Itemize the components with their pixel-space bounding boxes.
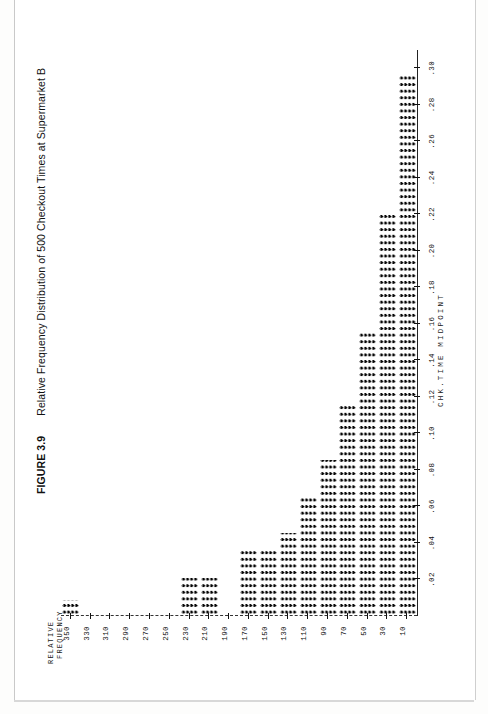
value-tick	[414, 104, 420, 105]
value-tick-label: .18	[428, 280, 436, 295]
category-tick-label: 290	[122, 626, 130, 641]
value-tick	[414, 67, 420, 68]
bar	[320, 460, 337, 615]
value-tick-label: .08	[428, 463, 436, 478]
value-tick	[414, 396, 420, 397]
category-tick	[287, 613, 288, 619]
category-tick	[169, 613, 170, 619]
bar	[240, 551, 257, 615]
figure-page: FIGURE 3.9 Relative Frequency Distributi…	[0, 0, 488, 714]
category-tick	[268, 613, 269, 619]
category-tick	[228, 613, 229, 619]
value-tick-label: .12	[428, 390, 436, 405]
category-tick	[248, 613, 249, 619]
category-tick-label: 50	[360, 626, 368, 636]
bar	[201, 578, 218, 615]
value-tick-label: .10	[428, 426, 436, 441]
category-tick	[386, 613, 387, 619]
value-tick-label: .14	[428, 353, 436, 368]
category-tick-label: 130	[280, 626, 288, 641]
category-tick-label: 70	[340, 626, 348, 636]
category-tick	[70, 613, 71, 619]
category-tick	[347, 613, 348, 619]
scanned-sheet: FIGURE 3.9 Relative Frequency Distributi…	[14, 0, 476, 700]
sheet-bottom-edge	[14, 700, 474, 702]
plot-axes: .30.28.26.24.22.20.18.16.14.12.10.08.06.…	[61, 50, 417, 616]
category-axis-line	[61, 615, 417, 616]
bar	[280, 533, 297, 615]
category-tick	[327, 613, 328, 619]
category-tick	[406, 613, 407, 619]
category-tick-label: 250	[162, 626, 170, 641]
value-tick-label: .24	[428, 170, 436, 185]
bar	[339, 405, 356, 615]
value-tick-label: .26	[428, 134, 436, 149]
bar	[359, 332, 376, 615]
category-tick-label: 210	[201, 626, 209, 641]
value-tick-label: .22	[428, 207, 436, 222]
value-tick	[414, 505, 420, 506]
category-tick-label: 10	[399, 626, 407, 636]
bar	[399, 76, 416, 615]
category-tick	[109, 613, 110, 619]
category-tick-label: 170	[241, 626, 249, 641]
value-tick-label: .02	[428, 572, 436, 587]
value-tick-label: .30	[428, 61, 436, 76]
value-tick-label: .04	[428, 536, 436, 551]
value-axis-line	[417, 50, 418, 616]
category-tick	[129, 613, 130, 619]
value-tick-label: .20	[428, 243, 436, 258]
category-tick-label: 30	[379, 626, 387, 636]
category-tick-label: 110	[300, 626, 308, 641]
value-tick	[414, 140, 420, 141]
category-tick	[367, 613, 368, 619]
bar	[181, 578, 198, 615]
category-tick-label: 150	[261, 626, 269, 641]
chktime-midpoint-axis-title: CHK.TIME MIDPOINT	[437, 30, 445, 670]
bar	[260, 551, 277, 615]
category-tick	[307, 613, 308, 619]
value-tick	[414, 542, 420, 543]
value-tick-label: .16	[428, 317, 436, 332]
category-tick	[149, 613, 150, 619]
relative-frequency-axis-title: RELATIVEFREQUENCY	[47, 610, 64, 664]
bar	[300, 496, 317, 615]
value-tick	[414, 213, 420, 214]
category-tick-label: 310	[102, 626, 110, 641]
category-tick	[90, 613, 91, 619]
value-tick	[414, 359, 420, 360]
category-tick-label: 330	[83, 626, 91, 641]
value-tick	[414, 432, 420, 433]
value-tick	[414, 323, 420, 324]
bar	[62, 600, 79, 615]
bar	[379, 213, 396, 615]
value-tick-label: .06	[428, 499, 436, 514]
value-tick	[414, 286, 420, 287]
category-tick-label: 350	[63, 626, 71, 641]
category-tick-label: 270	[142, 626, 150, 641]
value-tick	[414, 250, 420, 251]
category-tick	[189, 613, 190, 619]
value-tick	[414, 177, 420, 178]
category-tick	[208, 613, 209, 619]
histogram-plot: RELATIVEFREQUENCY .30.28.26.24.22.20.18.…	[43, 30, 447, 670]
category-tick-label: 190	[221, 626, 229, 641]
category-tick-label: 90	[320, 626, 328, 636]
category-tick-label: 230	[182, 626, 190, 641]
value-tick-label: .28	[428, 97, 436, 112]
value-tick	[414, 469, 420, 470]
value-tick	[414, 578, 420, 579]
